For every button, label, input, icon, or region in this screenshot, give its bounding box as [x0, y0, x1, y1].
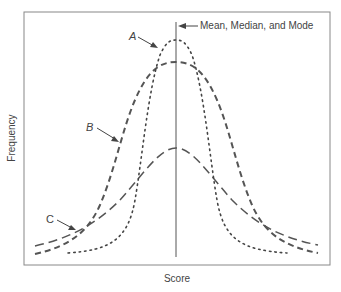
arrow-a-head [150, 42, 158, 48]
y-axis-label: Frequency [6, 114, 17, 161]
series-A-curve [68, 40, 287, 253]
label-a: A [128, 30, 136, 42]
mmm-arrow-head [178, 23, 186, 29]
arrow-b-line [97, 128, 115, 139]
label-b: B [86, 121, 93, 133]
mean-median-mode-label: Mean, Median, and Mode [200, 20, 314, 31]
arrow-c-line [57, 220, 72, 228]
x-axis-label: Score [164, 273, 191, 284]
normal-distribution-chart: Mean, Median, and Mode A B C Frequency S… [0, 0, 341, 292]
label-c: C [46, 213, 54, 225]
arrow-c-head [68, 225, 76, 230]
